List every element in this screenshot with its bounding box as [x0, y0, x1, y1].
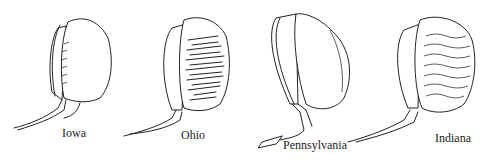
ohio-bonnet-drawing — [124, 18, 229, 136]
iowa-bonnet-drawing — [14, 19, 111, 130]
pennsylvania-bonnet-drawing — [258, 14, 350, 148]
caption-iowa: Iowa — [62, 126, 86, 141]
bonnet-illustration: Iowa Ohio Pennsylvania Indiana — [0, 0, 484, 162]
caption-indiana: Indiana — [435, 131, 471, 146]
caption-pennsylvania: Pennsylvania — [283, 138, 347, 153]
caption-ohio: Ohio — [181, 128, 205, 143]
indiana-bonnet-drawing — [348, 17, 475, 142]
